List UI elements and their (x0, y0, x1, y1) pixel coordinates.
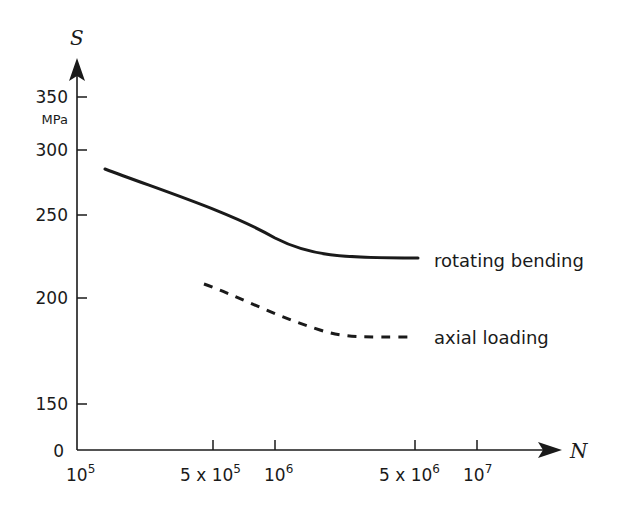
x-tick-1e6: 106 (264, 462, 293, 485)
x-tick-5e6: 5 x 106 (379, 462, 440, 485)
series-axial-loading (204, 284, 414, 337)
series-rotating-bending (105, 169, 418, 258)
x-axis-title: N (569, 439, 589, 463)
y-axis-title: S (70, 26, 84, 50)
y-tick-350: 350 (36, 87, 68, 107)
y-tick-200: 200 (36, 288, 68, 308)
y-ticks (77, 97, 87, 404)
x-tick-1e5: 105 (66, 462, 95, 485)
sn-fatigue-chart: 350 MPa 300 250 200 150 0 S N 105 5 x 10… (0, 0, 632, 513)
label-rotating-bending: rotating bending (434, 250, 584, 271)
y-unit-label: MPa (42, 112, 68, 127)
y-tick-0: 0 (53, 441, 64, 461)
y-tick-250: 250 (36, 205, 68, 225)
x-tick-1e7: 107 (463, 462, 492, 485)
x-ticks (213, 440, 477, 450)
x-tick-5e5: 5 x 105 (180, 462, 241, 485)
y-tick-300: 300 (36, 140, 68, 160)
y-tick-150: 150 (36, 394, 68, 414)
label-axial-loading: axial loading (434, 327, 549, 348)
